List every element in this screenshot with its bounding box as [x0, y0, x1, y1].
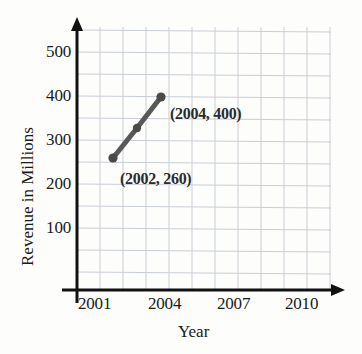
data-series-revenue: [108, 92, 165, 162]
x-tick-label-2010: 2010: [285, 294, 318, 314]
y-tick-label-500: 500: [27, 42, 71, 62]
data-point-marker: [133, 124, 141, 132]
x-axis-title: Year: [178, 322, 209, 342]
x-tick-label-2004: 2004: [148, 294, 181, 314]
y-axis-title: Revenue in Millions: [18, 127, 38, 266]
data-point-annotation-2002: (2002, 260): [120, 170, 191, 188]
y-tick-label-400: 400: [27, 86, 71, 106]
x-tick-label-2007: 2007: [217, 294, 250, 314]
y-axis: [71, 17, 83, 303]
x-tick-label-2001: 2001: [78, 294, 111, 314]
data-point-marker: [108, 153, 117, 162]
data-point-annotation-2004: (2004, 400): [170, 105, 241, 123]
revenue-line-chart: 500 400 300 200 100 2001 2004 2007 2010 …: [0, 0, 362, 354]
data-point-marker: [156, 92, 165, 101]
